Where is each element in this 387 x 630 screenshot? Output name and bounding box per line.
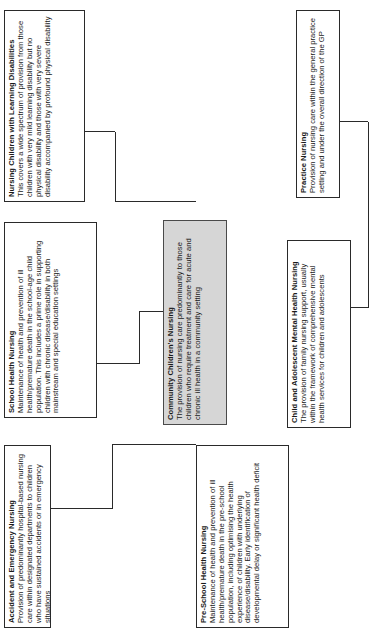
- node-community-childrens-nursing[interactable]: Community Children's Nursing The provisi…: [163, 220, 227, 425]
- node-body: The provision of nursing care predominan…: [176, 225, 202, 420]
- node-pre-school-health-nursing[interactable]: Pre-School Health Nursing Maintenance of…: [196, 445, 289, 628]
- node-accident-and-emergency-nursing[interactable]: Accident and Emergency Nursing Provision…: [4, 445, 51, 628]
- node-nursing-children-with-learning-disabilities[interactable]: Nursing Children with Learning Disabilit…: [4, 10, 85, 202]
- connector-right-spine: [115, 132, 116, 202]
- connector-school-health-stub: [97, 363, 139, 364]
- connector-camh-run: [368, 122, 369, 308]
- diagram-rotation-wrapper: Accident and Emergency Nursing Provision…: [0, 0, 387, 630]
- connector-left-spine: [112, 445, 113, 509]
- connector-pre-school-stub: [112, 444, 196, 445]
- node-body: Provision of nursing care within the gen…: [309, 15, 327, 193]
- node-body: The provision of family nursing support,…: [300, 245, 326, 423]
- connector-camh-stub: [351, 307, 368, 308]
- node-body: Provision of predominantly hospital-base…: [17, 450, 52, 623]
- connector-hub-top-feed: [139, 311, 163, 312]
- node-practice-nursing[interactable]: Practice Nursing Provision of nursing ca…: [296, 10, 340, 198]
- node-school-health-nursing[interactable]: School Health Nursing Maintenance of hea…: [4, 222, 97, 418]
- diagram-canvas: Accident and Emergency Nursing Provision…: [0, 0, 387, 630]
- node-body: This covers a wide spectrum of provision…: [17, 15, 52, 197]
- connector-learning-disabilities-stub: [85, 131, 115, 132]
- connector-right-down: [115, 201, 196, 202]
- node-body: Maintenance of health and prevention of …: [17, 227, 61, 413]
- node-child-and-adolescent-mental-health-nursing[interactable]: Child and Adolescent Mental Health Nursi…: [287, 240, 351, 428]
- node-body: Maintenance of health and prevention of …: [209, 450, 262, 623]
- connector-practice-nursing-stub: [340, 121, 368, 122]
- connector-accident-emergency-stub: [51, 508, 112, 509]
- connector-school-health-run: [139, 312, 140, 364]
